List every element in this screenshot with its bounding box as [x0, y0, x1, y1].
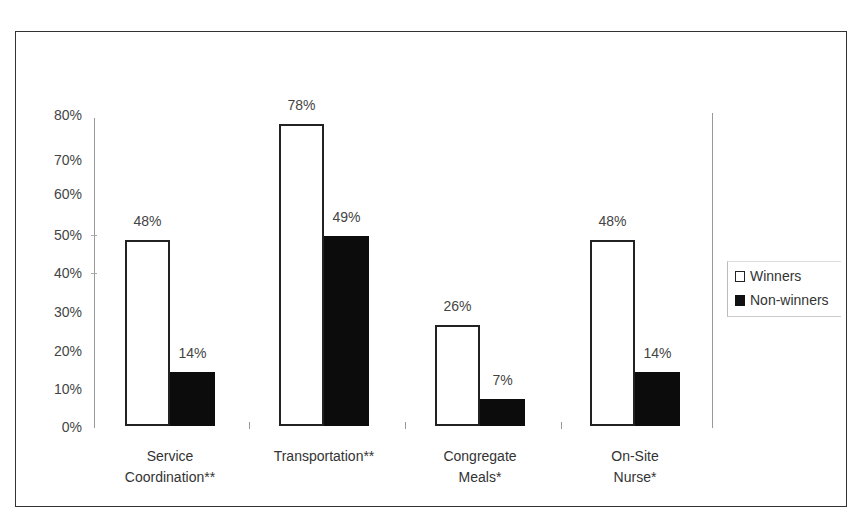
y-tick-label: 80% [54, 107, 82, 123]
legend-item-non-winners: Non-winners [735, 292, 829, 308]
legend-label-non-winners: Non-winners [750, 292, 829, 308]
y-axis-tick [91, 235, 97, 236]
bar-value-label: 48% [583, 213, 643, 229]
winners-bar [125, 240, 170, 426]
legend-item-winners: Winners [735, 268, 801, 284]
category-label: On-Site Nurse* [555, 446, 715, 488]
y-tick-label: 40% [54, 265, 82, 281]
y-axis-tick [91, 273, 97, 274]
non-winners-bar [480, 399, 525, 426]
category-label: Congregate Meals* [400, 446, 560, 488]
category-separator-tick [405, 422, 406, 429]
legend-label-winners: Winners [750, 268, 801, 284]
y-tick-label: 20% [54, 343, 82, 359]
winners-swatch-icon [735, 271, 745, 282]
bar-value-label: 78% [272, 97, 332, 113]
y-tick-label: 70% [54, 152, 82, 168]
category-separator-tick [561, 422, 562, 429]
y-tick-label: 60% [54, 186, 82, 202]
y-tick-label: 50% [54, 227, 82, 243]
bar-value-label: 14% [163, 345, 223, 361]
legend: Winners Non-winners [727, 261, 841, 317]
winners-bar [279, 124, 324, 426]
non-winners-bar [635, 372, 680, 426]
non-winners-swatch-icon [735, 295, 745, 306]
non-winners-bar [170, 372, 215, 426]
bar-value-label: 49% [317, 209, 377, 225]
category-separator-tick [249, 422, 250, 429]
y-tick-label: 30% [54, 304, 82, 320]
category-label: Service Coordination** [90, 446, 250, 488]
winners-bar [590, 240, 635, 426]
bar-value-label: 14% [628, 345, 688, 361]
non-winners-bar [324, 236, 369, 426]
bar-value-label: 26% [428, 298, 488, 314]
y-tick-label: 10% [54, 381, 82, 397]
y-tick-label: 0% [62, 419, 82, 435]
bar-value-label: 7% [473, 372, 533, 388]
bar-value-label: 48% [118, 213, 178, 229]
plot-right-border [712, 113, 713, 428]
category-label: Transportation** [244, 446, 404, 467]
